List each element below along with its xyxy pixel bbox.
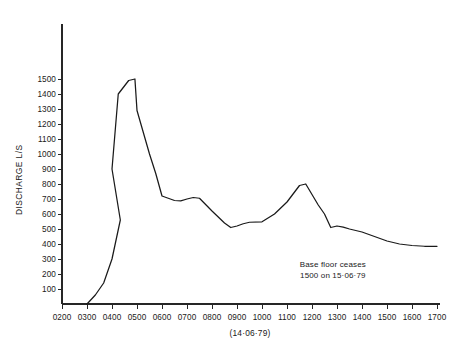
hydrograph-chart: 1002003004005006007008009001000110012001… (0, 0, 470, 355)
x-tick-label: 0900 (228, 313, 247, 322)
y-tick-label: 400 (42, 240, 56, 249)
y-tick-label: 200 (42, 270, 56, 279)
x-tick-label: 0700 (178, 313, 197, 322)
y-tick-label: 1100 (38, 135, 56, 144)
y-tick-label: 1400 (37, 90, 56, 99)
x-tick-label: 0600 (153, 313, 172, 322)
y-tick-label: 700 (42, 195, 56, 204)
x-tick-label: 1200 (303, 313, 322, 322)
x-tick-label: 0400 (103, 313, 122, 322)
x-tick-label: 1100 (278, 313, 296, 322)
x-axis-title: (14·06·79) (229, 328, 270, 338)
y-tick-label: 100 (42, 285, 56, 294)
chart-annotations: Base floor ceases1500 on 15·06·79 (300, 260, 366, 280)
x-tick-label: 0500 (128, 313, 147, 322)
chart-canvas: 1002003004005006007008009001000110012001… (0, 0, 470, 355)
x-tick-label: 0200 (53, 313, 72, 322)
y-tick-label: 800 (42, 180, 56, 189)
y-tick-label: 900 (42, 165, 56, 174)
y-tick-label: 600 (42, 210, 56, 219)
x-tick-label: 0800 (203, 313, 222, 322)
y-tick-label: 1500 (37, 75, 56, 84)
base-flow-note-line-1: 1500 on 15·06·79 (300, 271, 366, 280)
x-tick-label: 1000 (253, 313, 272, 322)
x-tick-label: 1300 (328, 313, 347, 322)
x-tick-label: 0300 (78, 313, 97, 322)
x-tick-label: 1400 (353, 313, 372, 322)
y-tick-label: 300 (42, 255, 56, 264)
y-tick-label: 1000 (37, 150, 56, 159)
y-tick-label: 1200 (37, 120, 56, 129)
y-axis-tick-labels: 1002003004005006007008009001000110012001… (37, 75, 56, 294)
y-axis-title: DISCHARGE L/S (14, 144, 24, 215)
x-axis-tick-labels: 0200030004000500060007000800090010001100… (53, 313, 447, 322)
x-tick-label: 1500 (378, 313, 397, 322)
y-axis-ticks (58, 79, 62, 289)
x-axis-ticks (62, 304, 437, 309)
y-tick-label: 500 (42, 225, 56, 234)
discharge-line (87, 79, 437, 304)
y-tick-label: 1300 (37, 105, 56, 114)
x-tick-label: 1700 (428, 313, 447, 322)
x-tick-label: 1600 (403, 313, 422, 322)
base-flow-note-line-0: Base floor ceases (300, 260, 366, 269)
